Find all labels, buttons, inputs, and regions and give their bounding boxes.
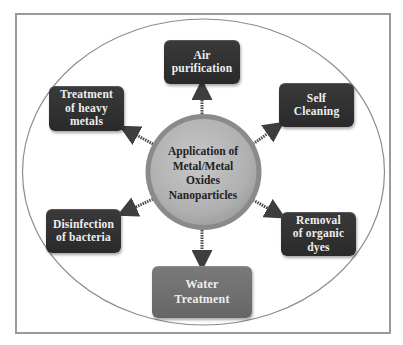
center-line: Nanoparticles bbox=[169, 188, 237, 203]
node-water-treatment: Water Treatment bbox=[152, 266, 252, 318]
node-line: Air bbox=[193, 49, 210, 63]
node-line: of organic bbox=[293, 227, 345, 241]
node-line: Disinfection bbox=[53, 218, 114, 232]
node-line: dyes bbox=[307, 241, 330, 255]
center-line: Application of bbox=[168, 144, 238, 159]
node-line: of bacteria bbox=[56, 231, 111, 245]
node-air-purification: Air purification bbox=[164, 40, 240, 84]
node-self-cleaning: Self Cleaning bbox=[279, 83, 354, 127]
node-removal-organic-dyes: Removal of organic dyes bbox=[281, 212, 356, 256]
node-line: Treatment bbox=[60, 88, 113, 102]
center-line: Oxides bbox=[186, 173, 220, 188]
node-line: Cleaning bbox=[294, 105, 340, 119]
node-line: Water bbox=[186, 277, 219, 292]
node-line: of heavy bbox=[65, 102, 108, 116]
node-disinfection-bacteria: Disinfection of bacteria bbox=[46, 209, 121, 253]
node-line: purification bbox=[172, 62, 233, 76]
node-treatment-heavy-metals: Treatment of heavy metals bbox=[49, 86, 124, 131]
node-line: Removal bbox=[296, 214, 341, 228]
node-line: Treatment bbox=[174, 292, 229, 307]
center-line: Metal/Metal bbox=[173, 159, 234, 174]
node-line: metals bbox=[70, 115, 103, 129]
node-line: Self bbox=[307, 92, 326, 106]
center-label: Application of Metal/Metal Oxides Nanopa… bbox=[146, 135, 260, 211]
